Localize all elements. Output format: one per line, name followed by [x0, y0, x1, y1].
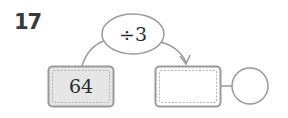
- diagram-stage: 17 ÷3 64: [0, 0, 288, 118]
- output-box[interactable]: [156, 67, 221, 107]
- input-value: 64: [69, 75, 93, 97]
- operation-label: ÷3: [119, 23, 147, 45]
- input-box: 64: [49, 67, 114, 107]
- flow-diagram: ÷3 64: [0, 0, 288, 118]
- result-circle[interactable]: [232, 68, 268, 104]
- connector-in: [82, 40, 106, 66]
- operation-ellipse: ÷3: [102, 14, 164, 54]
